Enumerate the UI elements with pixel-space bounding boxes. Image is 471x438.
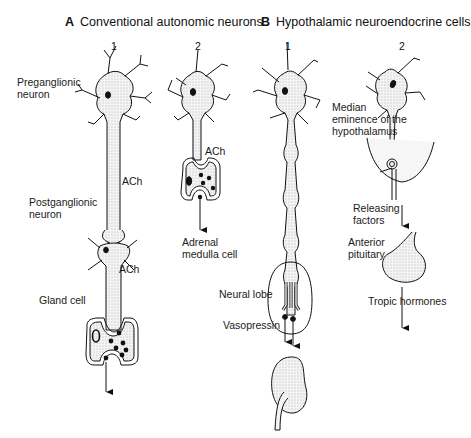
column-a1-number: 1 [111, 40, 117, 52]
label-adrenal-medulla: Adrenalmedulla cell [182, 236, 237, 260]
label-ach-2: ACh [205, 145, 225, 157]
label-gland-cell: Gland cell [39, 294, 86, 306]
label-ach-3: ACh [119, 263, 139, 275]
label-ach-1: ACh [122, 175, 142, 187]
column-b2-number: 2 [399, 40, 405, 52]
panel-a-title-text: Conventional autonomic neurons [80, 15, 263, 29]
label-line: Releasing [353, 202, 400, 214]
panel-b-letter: B [261, 15, 270, 29]
label-line: Preganglionic [17, 76, 81, 88]
panel-b-title: BHypothalamic neuroendocrine cells [261, 15, 471, 29]
panel-a-title: AConventional autonomic neurons [65, 15, 263, 29]
label-median-eminence: Medianeminence of thehypothalamus [332, 101, 407, 137]
panel-b-title-text: Hypothalamic neuroendocrine cells [276, 15, 471, 29]
preganglionic-neuron-2 [168, 50, 230, 160]
label-releasing-factors: Releasingfactors [353, 202, 400, 226]
kidney [272, 357, 307, 430]
postganglionic-neuron [88, 230, 137, 330]
column-b1-number: 1 [285, 40, 291, 52]
label-vasopressin: Vasopressin [223, 319, 280, 331]
label-line: neuron [17, 88, 81, 100]
label-line: medulla cell [182, 248, 237, 260]
panel-a-letter: A [65, 15, 74, 29]
anterior-pituitary [383, 232, 426, 328]
label-tropic-hormones: Tropic hormones [368, 295, 446, 307]
column-a2-number: 2 [195, 40, 201, 52]
label-line: eminence of the [332, 113, 407, 125]
label-anterior-pituitary: Anteriorpituitary [348, 236, 385, 260]
adrenal-medulla-cell [181, 158, 220, 230]
label-line: neuron [29, 208, 97, 220]
label-line: Adrenal [182, 236, 237, 248]
label-line: Median [332, 101, 407, 113]
label-line: pituitary [348, 248, 385, 260]
label-line: factors [353, 214, 400, 226]
label-line: Anterior [348, 236, 385, 248]
label-line: hypothalamus [332, 125, 407, 137]
label-preganglionic: Preganglionicneuron [17, 76, 81, 100]
hypothalamic-neuron-1 [253, 42, 320, 315]
label-neural-lobe: Neural lobe [219, 288, 273, 300]
label-line: Postganglionic [29, 196, 97, 208]
label-postganglionic: Postganglionicneuron [29, 196, 97, 220]
